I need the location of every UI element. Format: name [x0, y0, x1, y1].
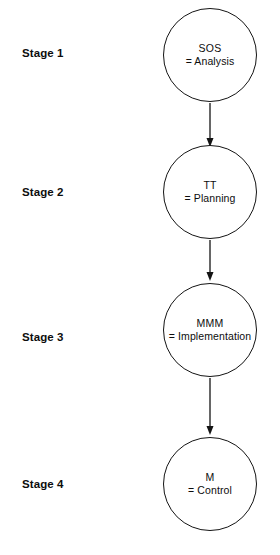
arrowhead-icon [207, 426, 214, 435]
stage-node-4: M= Control [163, 437, 257, 531]
arrow-stage1-to-stage2 [204, 103, 216, 149]
stage-node-meaning-2: = Planning [185, 192, 236, 205]
stage-node-3: MMM= Implementation [163, 283, 257, 377]
stage-node-meaning-4: = Control [188, 484, 232, 497]
arrowhead-icon [207, 272, 214, 281]
stage-node-meaning-3: = Implementation [169, 330, 251, 343]
arrow-stage2-to-stage3 [204, 240, 216, 283]
stage-node-meaning-1: = Analysis [186, 55, 235, 68]
stage-label-3: Stage 3 [22, 332, 64, 344]
stage-label-1: Stage 1 [22, 48, 64, 60]
stage-node-1: SOS= Analysis [163, 8, 257, 102]
stage-flow-diagram: Stage 1SOS= AnalysisStage 2TT= PlanningS… [0, 0, 280, 555]
stage-node-code-1: SOS [199, 42, 222, 55]
stage-node-code-4: M [206, 471, 215, 484]
stage-node-2: TT= Planning [163, 145, 257, 239]
arrow-stage3-to-stage4 [204, 378, 216, 437]
stage-label-4: Stage 4 [22, 479, 64, 491]
stage-label-2: Stage 2 [22, 187, 64, 199]
stage-node-code-2: TT [203, 179, 216, 192]
stage-node-code-3: MMM [197, 317, 224, 330]
